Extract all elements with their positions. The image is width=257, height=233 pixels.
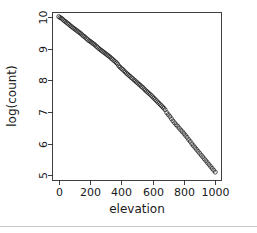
plot-canvas: 5678910 02004006008001000 elevation log(…: [0, 0, 257, 233]
y-tick-label: 9: [37, 46, 50, 53]
x-tick-label: 0: [56, 186, 63, 199]
x-tick-label: 800: [174, 186, 195, 199]
y-tick-label: 5: [37, 172, 50, 179]
x-tick-label: 600: [143, 186, 164, 199]
bottom-divider-rule: [0, 226, 257, 227]
x-tick-label: 1000: [202, 186, 230, 199]
y-tick-label: 7: [37, 109, 50, 116]
scatter-plot-figure: 5678910 02004006008001000 elevation log(…: [0, 0, 257, 233]
x-tick-label: 200: [80, 186, 101, 199]
y-axis-title: log(count): [5, 65, 19, 127]
y-tick-label: 8: [37, 77, 50, 84]
y-tick-label: 10: [37, 11, 50, 25]
x-axis-title: elevation: [109, 202, 165, 216]
x-axis-tick-labels: 02004006008001000: [56, 186, 230, 199]
y-tick-label: 6: [37, 141, 50, 148]
x-tick-label: 400: [111, 186, 132, 199]
